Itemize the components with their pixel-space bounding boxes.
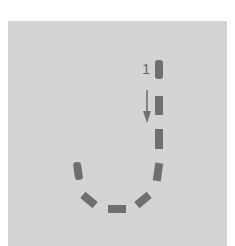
step-number-label: 1 [142,60,150,77]
path-segment [153,163,163,182]
path-segment [155,96,163,115]
path-segment [108,205,126,213]
path-segment [155,60,163,79]
path-segment [134,192,151,208]
path-segment [80,192,97,208]
path-segment [155,129,163,149]
dashed-j-path [73,60,163,213]
down-arrow-icon [143,90,151,123]
path-segment [73,162,83,181]
j-path-diagram [0,0,235,246]
